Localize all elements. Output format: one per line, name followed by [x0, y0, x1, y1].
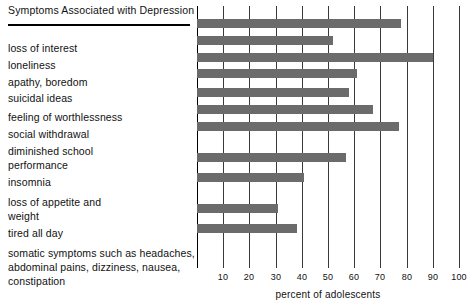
- category-label-line: performance: [8, 159, 68, 171]
- x-tick-100: 100: [451, 272, 467, 282]
- x-axis-tick-labels: 102030405060708090100: [197, 272, 459, 286]
- category-label-line: suicidal ideas: [8, 92, 72, 104]
- title-underline-rule: [8, 24, 190, 26]
- x-tick-30: 30: [271, 272, 281, 282]
- bar-somatic-symptoms: [197, 224, 297, 233]
- category-label-line: social withdrawal: [8, 128, 89, 140]
- x-tick-10: 10: [218, 272, 228, 282]
- bar-loss-of-appetite-and-weight: [197, 173, 304, 182]
- bar-series-group: [197, 6, 459, 268]
- category-label-line: constipation: [8, 275, 65, 287]
- category-label-line: loss of interest: [8, 42, 77, 54]
- category-label-line: insomnia: [8, 176, 51, 188]
- category-label-line: diminished school: [8, 145, 93, 157]
- x-tick-70: 70: [375, 272, 385, 282]
- bar-apathy-boredom: [197, 53, 433, 62]
- category-label-line: tired all day: [8, 227, 63, 239]
- bar-social-withdrawal: [197, 105, 373, 114]
- gridline-100: [459, 6, 460, 268]
- bar-suicidal-ideas: [197, 69, 357, 78]
- bar-diminished-school-performance: [197, 122, 399, 131]
- x-tick-50: 50: [323, 272, 333, 282]
- category-label-line: abdominal pains, dizziness, nausea,: [8, 261, 180, 273]
- chart-title: Symptoms Associated with Depression: [8, 4, 194, 16]
- category-label-line: somatic symptoms such as headaches,: [8, 247, 195, 259]
- category-label-line: loneliness: [8, 59, 56, 71]
- x-tick-90: 90: [428, 272, 438, 282]
- x-tick-80: 80: [402, 272, 412, 282]
- x-axis-title: percent of adolescents: [197, 289, 459, 300]
- category-label-line: weight: [8, 210, 39, 222]
- bar-insomnia: [197, 153, 346, 162]
- category-label-column: loss of interestlonelinessapathy, boredo…: [8, 28, 193, 268]
- category-label-line: apathy, boredom: [8, 76, 88, 88]
- bar-tired-all-day: [197, 204, 278, 213]
- category-label-line: feeling of worthlessness: [8, 111, 122, 123]
- depression-symptoms-chart: Symptoms Associated with Depression loss…: [0, 0, 472, 308]
- bar-loss-of-interest: [197, 19, 401, 28]
- bar-loneliness: [197, 36, 333, 45]
- x-tick-60: 60: [349, 272, 359, 282]
- category-label-line: loss of appetite and: [8, 196, 101, 208]
- x-tick-40: 40: [297, 272, 307, 282]
- x-tick-20: 20: [244, 272, 254, 282]
- bar-feeling-of-worthlessness: [197, 88, 349, 97]
